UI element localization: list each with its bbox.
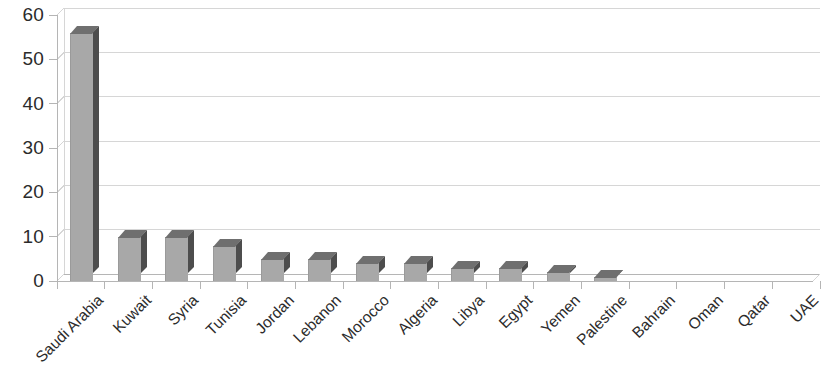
bar-front-face: [70, 33, 93, 281]
y-axis-tick-label: 10: [0, 227, 44, 246]
y-axis-tick-label: 60: [0, 5, 44, 24]
bar-front-face: [356, 263, 379, 281]
bar-column[interactable]: [356, 256, 385, 281]
bar-top-face: [547, 265, 576, 273]
bar-front-face: [308, 259, 331, 281]
bar-front-face: [213, 246, 236, 281]
y-axis-tick-label: 0: [0, 271, 44, 290]
bar-side-face: [92, 26, 99, 274]
y-axis-tick-label: 40: [0, 94, 44, 113]
y-axis-tick-label: 30: [0, 138, 44, 157]
bar-column[interactable]: [308, 252, 337, 281]
bar-column[interactable]: [165, 230, 194, 281]
bar-front-face: [547, 272, 570, 281]
bar-front-face: [165, 237, 188, 281]
bar-column[interactable]: [404, 256, 433, 281]
bar-chart: 0102030405060 Saudi ArabiaKuwaitSyriaTun…: [0, 0, 827, 391]
bar-column[interactable]: [261, 252, 290, 281]
bar-column[interactable]: [499, 261, 528, 281]
bar-column[interactable]: [594, 270, 623, 281]
bar-front-face: [499, 268, 522, 281]
bar-column[interactable]: [451, 261, 480, 281]
bar-column[interactable]: [213, 239, 242, 281]
bar-column[interactable]: [118, 230, 147, 281]
bar-front-face: [118, 237, 141, 281]
bar-column[interactable]: [70, 26, 99, 281]
bar-front-face: [404, 263, 427, 281]
bar-column[interactable]: [547, 265, 576, 281]
bar-top-face: [594, 270, 623, 278]
bar-front-face: [451, 268, 474, 281]
y-axis-tick-label: 20: [0, 182, 44, 201]
y-axis-labels: 0102030405060: [0, 0, 44, 391]
bar-front-face: [261, 259, 284, 281]
y-axis-tick-label: 50: [0, 49, 44, 68]
